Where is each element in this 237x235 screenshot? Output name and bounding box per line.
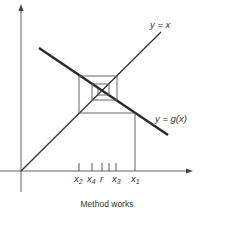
y-axis-arrow-icon [19,4,24,11]
cobweb-path [79,76,135,171]
g-function-label: y = g(x) [154,113,187,124]
tick-label-x1: x1 [130,173,140,185]
x-axis-ticks [79,163,116,171]
identity-line-label: y = x [149,19,172,30]
fixed-point-iteration-diagram: x2 x4 r x3 x1 y = x y = g(x) Method work… [0,0,237,235]
tick-label-r: r [100,173,104,184]
tick-label-x3: x3 [111,173,121,185]
identity-line [21,32,161,171]
g-function-line [39,48,168,135]
tick-label-x2: x2 [73,173,83,185]
x-axis-arrow-icon [186,169,193,174]
x-axis-tick-labels: x2 x4 r x3 x1 [73,173,140,185]
diagram-caption: Method works [81,199,134,209]
tick-label-x4: x4 [86,173,96,185]
